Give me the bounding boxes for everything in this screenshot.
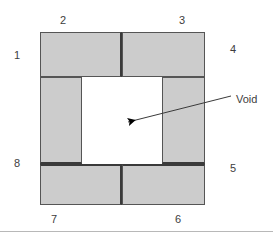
block-segment-7 [40, 164, 122, 205]
segment-label-1: 1 [14, 50, 20, 61]
segment-label-4: 4 [230, 44, 236, 55]
segment-label-6: 6 [175, 214, 181, 225]
bottom-divider-rule [0, 231, 273, 232]
void-label: Void [236, 94, 257, 105]
block-segment-4 [162, 77, 205, 164]
segment-label-7: 7 [51, 214, 57, 225]
block-segment-6 [122, 164, 205, 205]
block-segment-1 [40, 77, 82, 164]
diagram-canvas: 1 2 3 4 5 6 7 8 Void [0, 0, 273, 240]
segment-label-5: 5 [230, 163, 236, 174]
segment-label-3: 3 [179, 15, 185, 26]
void-region [82, 77, 162, 164]
block-segment-2 [40, 32, 122, 77]
block-segment-3 [122, 32, 205, 77]
segment-label-2: 2 [60, 15, 66, 26]
segment-label-8: 8 [14, 158, 20, 169]
